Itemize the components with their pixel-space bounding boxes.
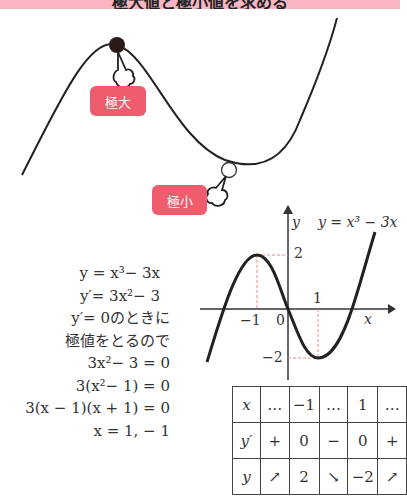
max-label-tag: 極大 xyxy=(90,86,146,116)
equation-label: y = x³ − 3x xyxy=(318,214,397,230)
increase-decrease-table: x … −1 … 1 … y′ + 0 − 0 + y ↗ 2 ↘ −2 ↗ xyxy=(232,386,407,495)
formula-line: 極値をとるので xyxy=(0,330,170,353)
table-row: y′ + 0 − 0 + xyxy=(233,423,407,459)
formula-line: 3(x − 1)(x + 1) = 0 xyxy=(0,397,170,420)
min-point xyxy=(222,163,237,178)
pointing-hand-icon-min xyxy=(206,176,227,206)
tick-x-1: 1 xyxy=(313,290,322,306)
tick-x-neg1: −1 xyxy=(240,312,261,328)
derivation-steps: y = x³− 3x y′= 3x²− 3 y′= 0のときに 極値をとるので … xyxy=(0,262,170,442)
table-row: x … −1 … 1 … xyxy=(233,387,407,423)
formula-line: y = x³− 3x xyxy=(0,262,170,285)
formula-line: 3x²− 3 = 0 xyxy=(0,352,170,375)
formula-line: y′= 0のときに xyxy=(0,307,170,330)
formula-line: y′= 3x²− 3 xyxy=(0,285,170,308)
tick-y-neg2: −2 xyxy=(262,349,283,365)
formula-line: 3(x²− 1) = 0 xyxy=(0,375,170,398)
cubic-graph-curve xyxy=(207,232,375,362)
y-axis-label: y xyxy=(292,214,300,230)
tick-origin: 0 xyxy=(276,312,285,328)
formula-line: x = 1, − 1 xyxy=(0,420,170,443)
tick-y-2: 2 xyxy=(294,245,303,261)
pointing-hand-icon-max xyxy=(114,52,135,88)
y-axis-arrow-icon xyxy=(283,205,293,214)
min-label-tag: 極小 xyxy=(152,185,207,215)
x-axis-label: x xyxy=(364,311,372,327)
illustrative-cubic-curve xyxy=(22,18,337,175)
max-point xyxy=(109,37,125,53)
x-axis-arrow-icon xyxy=(388,304,396,314)
table-row: y ↗ 2 ↘ −2 ↗ xyxy=(233,459,407,495)
